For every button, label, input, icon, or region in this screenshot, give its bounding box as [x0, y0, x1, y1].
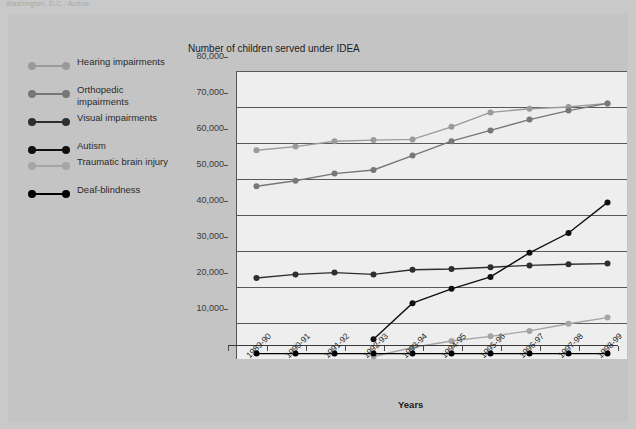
y-tick-label: 50,000 [196, 159, 224, 169]
series-point [332, 171, 338, 177]
legend-swatch-icon [28, 190, 70, 198]
y-tick-label: 10,000 [196, 303, 224, 313]
series-point [371, 167, 377, 173]
legend-item-label: Hearing impairments [77, 56, 177, 68]
series-line [257, 103, 608, 150]
series-point [254, 183, 260, 189]
x-tick-mark [501, 346, 502, 351]
series-point [527, 106, 533, 112]
series-point [605, 261, 611, 267]
legend-item-label: Traumatic brain injury [77, 156, 177, 168]
series-point [410, 136, 416, 142]
series-point [566, 321, 572, 327]
figure-panel: Hearing impairmentsOrthopedic impairment… [8, 14, 628, 422]
legend-item-label: Autism [77, 140, 177, 152]
series-point [410, 300, 416, 306]
page-root: Washington, D.C.: Author. Hearing impair… [0, 0, 636, 429]
legend-swatch-icon [28, 162, 70, 170]
series-point [449, 266, 455, 272]
series-point [566, 230, 572, 236]
series-point [332, 138, 338, 144]
series-point [566, 261, 572, 267]
legend-item-label: Visual impairments [77, 112, 177, 124]
legend-swatch-icon [28, 118, 70, 126]
series-point [254, 147, 260, 153]
x-tick-mark [579, 346, 580, 351]
series-point [332, 270, 338, 276]
series-point [449, 138, 455, 144]
y-tick-mark [224, 201, 228, 202]
series-point [605, 199, 611, 205]
legend-item-label: Orthopedic impairments [77, 84, 177, 107]
x-axis-title: Years [398, 399, 423, 410]
series-point [488, 109, 494, 115]
series-point [488, 127, 494, 133]
series-point [371, 271, 377, 277]
legend-item: Deaf-blindness [28, 186, 178, 200]
y-tick-mark [224, 93, 228, 94]
x-tick-mark [228, 346, 229, 351]
x-tick-mark [462, 346, 463, 351]
legend-swatch-icon [28, 90, 70, 98]
y-tick-label: 40,000 [196, 195, 224, 205]
y-tick-label: 30,000 [196, 231, 224, 241]
y-tick-mark [224, 57, 228, 58]
y-tick-label: 20,000 [196, 267, 224, 277]
plot-area [236, 71, 627, 359]
series-point [410, 267, 416, 273]
series-point [488, 264, 494, 270]
legend-swatch-icon [28, 62, 70, 70]
series-point [293, 144, 299, 150]
series-point [254, 275, 260, 281]
series-point [449, 286, 455, 292]
series-point [605, 100, 611, 106]
series-point [488, 274, 494, 280]
x-tick-mark [423, 346, 424, 351]
y-tick-mark [224, 129, 228, 130]
y-tick-mark [224, 273, 228, 274]
series-point [449, 124, 455, 130]
legend-item: Hearing impairments [28, 58, 178, 84]
series-point [566, 108, 572, 114]
x-tick-mark [618, 346, 619, 351]
x-tick-mark [345, 346, 346, 351]
series-point [293, 271, 299, 277]
x-tick-mark [540, 346, 541, 351]
y-axis-labels: 10,00020,00030,00040,00050,00060,00070,0… [168, 0, 224, 429]
series-point [527, 262, 533, 268]
legend-item: Orthopedic impairments [28, 86, 178, 112]
legend-swatch-icon [28, 146, 70, 154]
legend-item: Autism [28, 142, 178, 156]
y-tick-mark [224, 237, 228, 238]
x-tick-mark [306, 346, 307, 351]
running-header-text: Washington, D.C.: Author. [6, 0, 306, 12]
series-point [527, 117, 533, 123]
series-line [257, 264, 608, 278]
series-point [371, 137, 377, 143]
series-lines [237, 71, 627, 359]
y-tick-mark [224, 165, 228, 166]
series-point [527, 250, 533, 256]
y-tick-label: 70,000 [196, 87, 224, 97]
series-point [527, 328, 533, 334]
series-point [605, 315, 611, 321]
x-tick-mark [384, 346, 385, 351]
y-tick-mark [224, 309, 228, 310]
legend-item-label: Deaf-blindness [77, 184, 177, 196]
chart-legend: Hearing impairmentsOrthopedic impairment… [28, 58, 178, 202]
y-tick-label: 80,000 [196, 51, 224, 61]
legend-item: Traumatic brain injury [28, 158, 178, 184]
y-tick-label: 60,000 [196, 123, 224, 133]
series-point [293, 178, 299, 184]
legend-item: Visual impairments [28, 114, 178, 140]
series-point [410, 153, 416, 159]
x-tick-mark [267, 346, 268, 351]
